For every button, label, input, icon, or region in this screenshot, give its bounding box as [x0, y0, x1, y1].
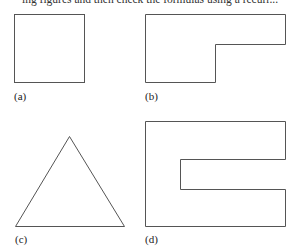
figure-c-triangle: [16, 137, 125, 227]
figure-b-label: (b): [145, 90, 158, 102]
figure-b-l-shape: [146, 15, 286, 83]
figure-d-c-shape: [146, 122, 286, 227]
figure-a-label: (a): [14, 90, 26, 102]
figure-d-label: (d): [145, 233, 158, 245]
figure-c-label: (c): [15, 233, 27, 245]
figure-a-square: [15, 15, 85, 83]
figures-canvas: [0, 0, 299, 246]
